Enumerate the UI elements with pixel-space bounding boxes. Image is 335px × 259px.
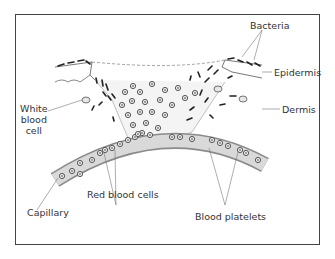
capillary-lumen (55, 141, 265, 180)
label-red-blood-cells: Red blood cells (87, 189, 159, 200)
label-bacteria: Bacteria (250, 20, 290, 31)
label-capillary: Capillary (27, 207, 69, 218)
label-dermis: Dermis (282, 104, 316, 115)
wound-illustration (0, 0, 335, 259)
label-white-blood-cell: White blood cell (20, 103, 48, 136)
label-epidermis: Epidermis (274, 67, 321, 78)
label-blood-platelets: Blood platelets (195, 211, 266, 222)
wound-gap-line (92, 60, 225, 66)
